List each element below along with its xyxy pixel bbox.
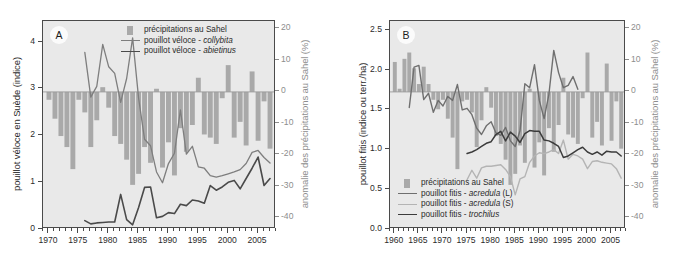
x-tick-mark-minor [494, 228, 495, 231]
legend-bar-swatch [127, 26, 133, 35]
y-tick-label: 0 [30, 223, 35, 233]
x-tick-mark-minor [509, 228, 510, 231]
x-tick-mark-major [490, 228, 491, 233]
x-tick-mark-minor [389, 228, 390, 231]
precipitation-bar [393, 62, 397, 92]
right-y-tick-label: -10 [281, 117, 293, 127]
x-tick-mark-minor [552, 228, 553, 231]
legend-item: pouillot véloce - collybita [120, 36, 236, 47]
x-tick-mark-minor [185, 228, 186, 231]
precipitation-bar [504, 92, 508, 160]
precipitation-bar [542, 92, 546, 176]
right-y-tick-mark [275, 153, 279, 154]
precipitation-bar [94, 92, 99, 120]
y-tick-mark [385, 148, 389, 149]
precipitation-bar [576, 92, 580, 144]
x-tick-mark-minor [572, 228, 573, 231]
precipitation-bar [208, 92, 213, 138]
precipitation-bar [398, 89, 402, 92]
right-y-tick-label: 20 [281, 22, 291, 32]
y-tick-mark [38, 87, 42, 88]
panel-b-legend: précipitations au Sahelpouillot fitis - … [397, 178, 513, 220]
precipitation-bar [160, 92, 165, 168]
legend-line-swatch [398, 214, 417, 215]
right-y-tick-mark [625, 59, 629, 60]
precipitation-bar [58, 92, 63, 136]
precipitation-bar [407, 53, 411, 92]
panel-a-right-axis-title: anomalie des précipitations au Sahel (%) [299, 20, 310, 228]
x-tick-mark-minor [591, 228, 592, 231]
legend-label: pouillot fitis - acredula (S) [421, 199, 513, 210]
x-tick-mark-minor [422, 228, 423, 231]
precipitation-bar [600, 92, 604, 146]
precipitation-bar [250, 71, 255, 91]
chart-panel-a: pouillot véloce en Suède (indice) anomal… [0, 0, 346, 262]
x-tick-mark-minor [470, 228, 471, 231]
precipitation-bar [614, 92, 618, 101]
precipitation-bar [70, 92, 75, 169]
x-tick-mark-minor [65, 228, 66, 231]
precipitation-bars [393, 53, 623, 185]
x-tick-mark-minor [600, 228, 601, 231]
x-tick-mark-major [610, 228, 611, 233]
x-tick-mark-minor [251, 228, 252, 231]
precipitation-bar [190, 92, 195, 125]
precipitation-bar [480, 92, 484, 120]
right-y-tick-mark [275, 90, 279, 91]
x-tick-mark-major [417, 228, 418, 233]
x-tick-mark-minor [245, 228, 246, 231]
panel-a-legend: précipitations au Sahelpouillot véloce -… [120, 25, 236, 57]
x-tick-mark-minor [547, 228, 548, 231]
x-tick-label: 2005 [595, 235, 627, 245]
y-tick-label: 2.5 [370, 24, 382, 34]
legend-item: pouillot fitis - acredula (S) [397, 199, 513, 210]
legend-line-swatch [398, 193, 417, 194]
x-tick-mark-minor [596, 228, 597, 231]
right-y-tick-mark [275, 216, 279, 217]
precipitation-bar [166, 92, 171, 142]
x-tick-mark-major [47, 228, 48, 233]
y-tick-label: 3 [30, 82, 35, 92]
precipitation-bar [605, 64, 609, 92]
right-y-tick-label: -10 [631, 117, 643, 127]
precipitation-bar [238, 92, 243, 122]
precipitation-bar [427, 84, 431, 92]
x-tick-mark-minor [543, 228, 544, 231]
x-tick-mark-minor [143, 228, 144, 231]
precipitation-bar [154, 89, 159, 92]
precipitation-bar [402, 59, 406, 92]
x-tick-label: 1975 [62, 235, 94, 245]
right-y-tick-label: 10 [631, 54, 641, 64]
y-tick-mark [38, 181, 42, 182]
x-tick-mark-major [77, 228, 78, 233]
x-tick-mark-minor [475, 228, 476, 231]
x-tick-mark-minor [528, 228, 529, 231]
x-tick-mark-major [107, 228, 108, 233]
precipitation-bar [53, 92, 58, 119]
y-tick-mark [385, 69, 389, 70]
x-tick-mark-minor [413, 228, 414, 231]
legend-key-line [397, 204, 417, 205]
x-tick-mark-minor [567, 228, 568, 231]
precipitation-bar [528, 89, 532, 92]
x-tick-mark-major [167, 228, 168, 233]
precipitation-bar [64, 92, 69, 147]
x-tick-mark-minor [504, 228, 505, 231]
panel-a-label: A [50, 26, 68, 44]
x-tick-mark-minor [173, 228, 174, 231]
precipitation-bar [566, 92, 570, 135]
x-tick-mark-minor [83, 228, 84, 231]
precipitation-bar [112, 92, 117, 136]
x-tick-mark-minor [155, 228, 156, 231]
precipitation-bar [590, 92, 594, 138]
x-tick-mark-minor [239, 228, 240, 231]
right-y-tick-label: 0 [281, 85, 286, 95]
x-tick-mark-minor [119, 228, 120, 231]
x-tick-mark-minor [89, 228, 90, 231]
legend-label: précipitations au Sahel [421, 178, 504, 189]
x-tick-mark-minor [179, 228, 180, 231]
right-y-tick-mark [625, 153, 629, 154]
legend-item: précipitations au Sahel [120, 25, 236, 36]
precipitation-bar [441, 92, 445, 100]
x-tick-mark-minor [461, 228, 462, 231]
